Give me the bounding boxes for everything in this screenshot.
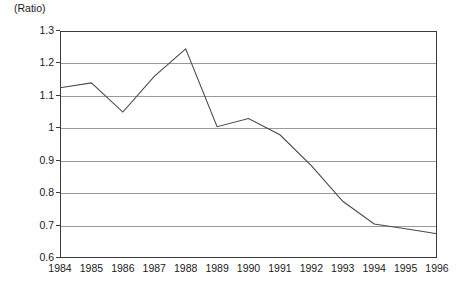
y-axis: 1.31.21.110.90.80.70.6: [0, 0, 461, 290]
y-tick-mark: [56, 225, 60, 226]
x-tick-label: 1994: [357, 262, 391, 274]
x-tick-label: 1989: [200, 262, 234, 274]
x-tick-label: 1995: [389, 262, 423, 274]
x-tick-label: 1996: [420, 262, 454, 274]
x-tick-label: 1992: [294, 262, 328, 274]
y-tick-mark: [56, 192, 60, 193]
y-tick-label: 1.1: [10, 90, 54, 101]
y-tick-mark: [56, 160, 60, 161]
y-tick-label: 0.8: [10, 187, 54, 198]
y-tick-mark: [56, 95, 60, 96]
y-tick-mark: [56, 127, 60, 128]
x-tick-label: 1991: [263, 262, 297, 274]
x-tick-label: 1985: [74, 262, 108, 274]
y-tick-label: 1.3: [10, 25, 54, 36]
y-tick-label: 1.2: [10, 57, 54, 68]
y-tick-label: 0.9: [10, 155, 54, 166]
x-tick-label: 1990: [232, 262, 266, 274]
x-tick-label: 1984: [43, 262, 77, 274]
y-tick-mark: [56, 62, 60, 63]
y-tick-label: 1: [10, 122, 54, 133]
x-tick-label: 1986: [106, 262, 140, 274]
y-tick-label: 0.7: [10, 220, 54, 231]
x-tick-label: 1988: [169, 262, 203, 274]
x-axis: 1984198519861987198819891990199119921993…: [0, 262, 461, 282]
line-chart: (Ratio) 1.31.21.110.90.80.70.6 198419851…: [0, 0, 461, 290]
x-tick-label: 1993: [326, 262, 360, 274]
y-tick-mark: [56, 30, 60, 31]
y-tick-mark: [56, 257, 60, 258]
x-tick-label: 1987: [137, 262, 171, 274]
